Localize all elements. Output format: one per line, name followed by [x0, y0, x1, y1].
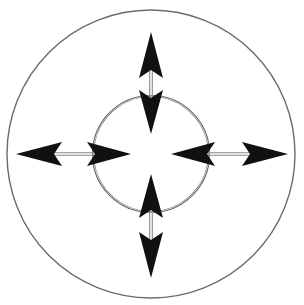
diagram-canvas: A large thin outer circle and a smaller … — [0, 0, 304, 305]
radial-arrow-diagram — [0, 0, 304, 305]
